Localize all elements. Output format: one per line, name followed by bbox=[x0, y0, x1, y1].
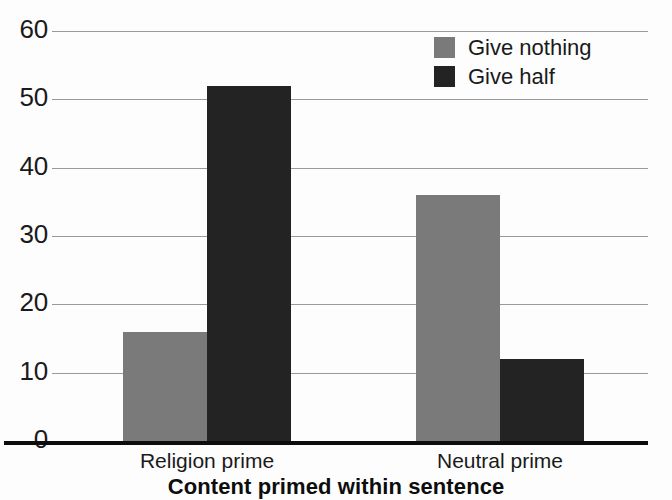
gridline-50 bbox=[62, 99, 648, 100]
bar-chart: 0102030405060 Religion primeNeutral prim… bbox=[0, 0, 672, 500]
gridline-60 bbox=[62, 31, 648, 32]
y-tick-label-20: 20 bbox=[19, 287, 48, 318]
y-tick-mark-10 bbox=[52, 373, 62, 374]
y-tick-mark-30 bbox=[52, 236, 62, 237]
legend-label-1: Give half bbox=[468, 64, 555, 90]
y-tick-label-40: 40 bbox=[19, 151, 48, 182]
y-tick-label-30: 30 bbox=[19, 219, 48, 250]
legend-item-1[interactable]: Give half bbox=[434, 62, 592, 91]
legend-swatch-icon-0 bbox=[434, 37, 455, 58]
gridline-40 bbox=[62, 168, 648, 169]
y-tick-label-10: 10 bbox=[19, 356, 48, 387]
plot-area bbox=[62, 31, 648, 441]
legend: Give nothingGive half bbox=[434, 33, 592, 91]
x-axis-line bbox=[4, 441, 648, 445]
x-category-label-1: Neutral prime bbox=[390, 449, 610, 473]
bar-neutral-prime-give-half bbox=[500, 359, 584, 441]
bar-religion-prime-give-nothing bbox=[123, 332, 207, 441]
y-tick-label-50: 50 bbox=[19, 82, 48, 113]
x-axis-title: Content primed within sentence bbox=[0, 474, 672, 500]
y-tick-mark-40 bbox=[52, 168, 62, 169]
gridline-20 bbox=[62, 304, 648, 305]
bar-neutral-prime-give-nothing bbox=[416, 195, 500, 441]
x-category-label-0: Religion prime bbox=[97, 449, 317, 473]
y-tick-mark-60 bbox=[52, 31, 62, 32]
y-tick-mark-50 bbox=[52, 99, 62, 100]
y-tick-mark-20 bbox=[52, 304, 62, 305]
y-tick-label-60: 60 bbox=[19, 14, 48, 45]
gridline-30 bbox=[62, 236, 648, 237]
legend-item-0[interactable]: Give nothing bbox=[434, 33, 592, 62]
bar-religion-prime-give-half bbox=[207, 86, 291, 441]
y-tick-label-0: 0 bbox=[34, 424, 48, 455]
legend-label-0: Give nothing bbox=[468, 35, 592, 61]
legend-swatch-icon-1 bbox=[434, 66, 455, 87]
y-axis: 0102030405060 bbox=[0, 0, 62, 500]
